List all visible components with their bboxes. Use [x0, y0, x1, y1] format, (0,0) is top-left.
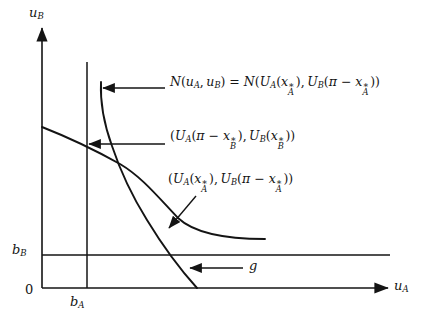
figure-canvas: [0, 0, 437, 329]
annotation-b-player-outcome: (UA(π − x∗B), UB(x∗B)): [170, 130, 295, 143]
origin-label: 0: [25, 283, 33, 296]
annotation-g-label: g: [249, 259, 257, 272]
y-axis-label: uB: [29, 6, 44, 19]
b-a-tick-label: bA: [70, 295, 85, 308]
x-axis-label: uA: [394, 279, 409, 292]
annotation-a-player-outcome: (UA(x∗A), UB(π − x∗A)): [168, 173, 293, 186]
economics-figure: uB uA 0 bA bB N(uA, uB) = N(UA(x∗A), UB(…: [0, 0, 437, 329]
annotation-nash-product-level: N(uA, uB) = N(UA(x∗A), UB(π − x∗A)): [170, 76, 380, 89]
b-b-tick-label: bB: [12, 243, 27, 256]
